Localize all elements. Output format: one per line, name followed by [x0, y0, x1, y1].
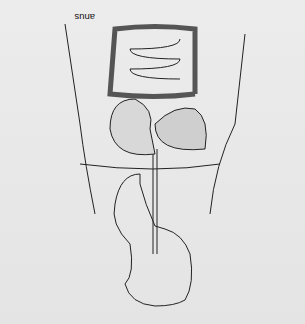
digestive-system-diagram: anus — [0, 0, 305, 324]
label-anus: anus — [74, 12, 95, 23]
